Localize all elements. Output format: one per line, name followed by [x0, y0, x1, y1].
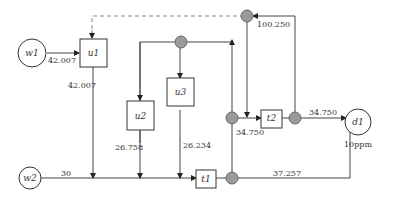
- flow-u1-out: 42.007: [68, 81, 96, 91]
- splitter-junction-t1-out: [226, 172, 238, 184]
- flow-u3-out: 26.234: [183, 141, 211, 151]
- flow-w1-to-u1: 42.007: [48, 56, 76, 66]
- flow-w2-out: 30: [61, 169, 71, 179]
- flow-u2-out: 26.758: [115, 143, 143, 153]
- unit-u1-label: u1: [80, 48, 107, 58]
- flow-t2-in: 34.750: [236, 128, 264, 138]
- sink-d1-spec: 10ppm: [344, 140, 372, 150]
- source-w2-label: w2: [20, 173, 40, 183]
- diagram-lines: [0, 0, 415, 197]
- water-network-diagram: w1 w2 u1 u2 u3 t1 t2 d1 42.007 42.007 30…: [0, 0, 415, 197]
- recycle-junction: [241, 10, 253, 22]
- mixer-junction-t2-in: [226, 112, 238, 124]
- flow-t2-out: 34.750: [309, 108, 337, 118]
- treatment-t2-label: t2: [261, 113, 282, 123]
- splitter-junction-t2-out: [289, 112, 301, 124]
- flow-recycle: 100.250: [257, 20, 290, 30]
- source-w1-label: w1: [22, 48, 42, 58]
- unit-u3-label: u3: [167, 87, 194, 97]
- splitter-junction-top: [175, 36, 187, 48]
- treatment-t1-label: t1: [196, 174, 216, 184]
- unit-u2-label: u2: [127, 111, 154, 121]
- sink-d1-label: d1: [346, 117, 370, 127]
- flow-t1-bypass: 37.257: [273, 169, 301, 179]
